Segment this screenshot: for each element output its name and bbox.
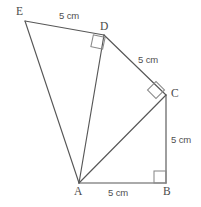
vertex-label-E: E — [16, 6, 23, 18]
vertex-label-D: D — [100, 21, 108, 33]
length-label-DC: 5 cm — [138, 55, 158, 65]
geometry-figure: E D C A B 5 cm 5 cm 5 cm 5 cm — [0, 0, 201, 207]
right-angle-C — [148, 82, 165, 99]
vertex-label-C: C — [171, 88, 179, 100]
vertex-label-B: B — [163, 186, 171, 198]
segment-DE — [25, 21, 104, 35]
vertex-label-A: A — [74, 186, 82, 198]
length-label-AB: 5 cm — [108, 188, 128, 198]
segment-CD — [104, 35, 166, 95]
right-angle-B — [154, 171, 166, 183]
length-label-DE: 5 cm — [59, 11, 79, 21]
segment-AE — [25, 21, 79, 183]
length-label-CB: 5 cm — [171, 135, 191, 145]
